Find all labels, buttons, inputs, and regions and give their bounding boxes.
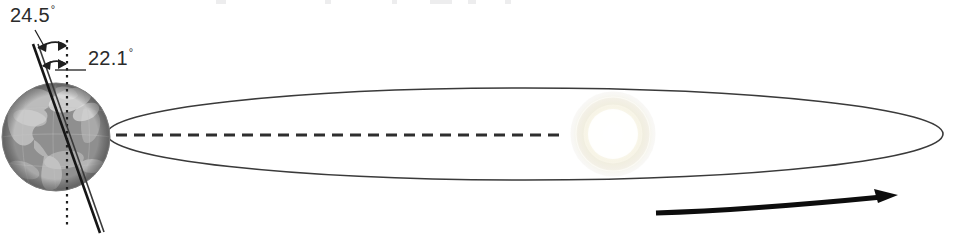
orbit-direction-arrowhead <box>874 189 898 203</box>
obliquity-max-arc-arrow <box>35 30 67 52</box>
obliquity-max-arrowhead-right <box>58 41 67 51</box>
orbit-direction-arrow-shaft <box>656 197 882 213</box>
earth-orbit-diagram: 24.5° 22.1° <box>0 0 968 236</box>
obliquity-max-leader-line <box>35 30 44 46</box>
obliquity-min-arc-arrow <box>42 59 86 70</box>
earth-globe <box>2 83 110 191</box>
obliquity-min-value: 22.1 <box>88 47 128 69</box>
obliquity-max-value: 24.5 <box>10 4 50 26</box>
obliquity-max-label: 24.5° <box>10 5 54 25</box>
obliquity-min-arrowhead-right <box>58 59 67 69</box>
degree-symbol-icon: ° <box>129 46 134 58</box>
sun-core <box>588 109 638 159</box>
obliquity-min-label: 22.1° <box>88 48 132 68</box>
orbit-direction-arrow <box>656 189 898 213</box>
diagram-canvas <box>0 0 968 236</box>
degree-symbol-icon: ° <box>51 3 56 15</box>
sun-group <box>569 90 657 178</box>
